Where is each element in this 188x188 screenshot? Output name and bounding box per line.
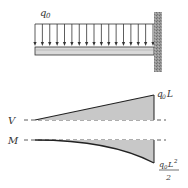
svg-text:L: L <box>167 160 173 169</box>
beam-diagram: q 0 V q 0 L M q 0 L 2 2 <box>0 0 188 188</box>
svg-text:2: 2 <box>165 173 171 182</box>
load-arrow-head-icon <box>33 42 36 46</box>
svg-text:0: 0 <box>162 93 166 100</box>
load-arrow-head-icon <box>92 42 95 46</box>
load-arrow-head-icon <box>63 42 66 46</box>
svg-text:2: 2 <box>173 158 178 164</box>
load-label: q 0 <box>40 7 51 20</box>
beam <box>35 47 154 55</box>
load-arrow-head-icon <box>100 42 103 46</box>
moment-area <box>35 140 154 163</box>
load-arrow-head-icon <box>129 42 132 46</box>
moment-end-label: q 0 L 2 2 <box>159 158 179 182</box>
load-arrow-head-icon <box>70 42 73 46</box>
shear-diagram: V q 0 L <box>8 89 173 126</box>
load-arrow-head-icon <box>56 42 59 46</box>
load-arrow-head-icon <box>144 42 147 46</box>
load-arrow-head-icon <box>85 42 88 46</box>
svg-text:L: L <box>166 89 173 99</box>
load-arrow-head-icon <box>48 42 51 46</box>
load-arrow-head-icon <box>137 42 140 46</box>
load-arrow-head-icon <box>122 42 125 46</box>
distributed-load-arrows <box>33 24 154 46</box>
shear-end-label: q 0 L <box>157 89 173 100</box>
load-arrow-head-icon <box>115 42 118 46</box>
fixed-wall-support <box>154 12 162 72</box>
moment-diagram: M q 0 L 2 2 <box>7 135 179 182</box>
shear-axis-label: V <box>8 115 17 126</box>
load-arrow-head-icon <box>107 42 110 46</box>
load-arrow-head-icon <box>41 42 44 46</box>
load-arrow-head-icon <box>78 42 81 46</box>
moment-axis-label: M <box>7 135 19 146</box>
svg-text:0: 0 <box>46 12 51 20</box>
